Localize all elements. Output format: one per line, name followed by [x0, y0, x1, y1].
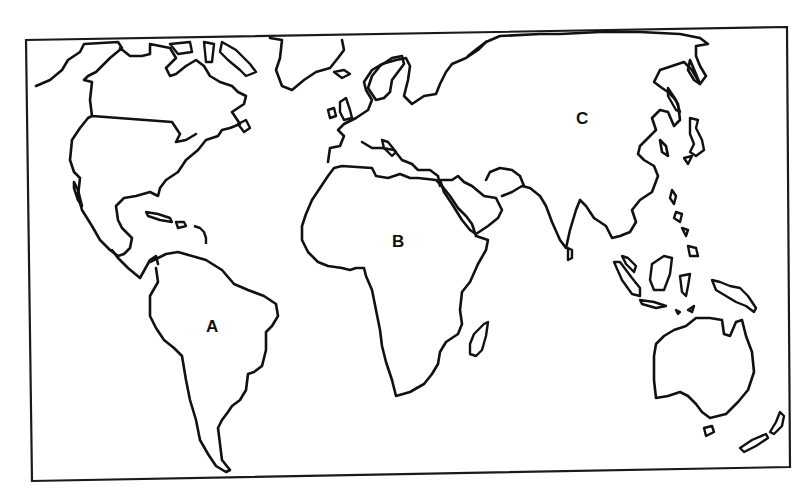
asia-outline — [468, 32, 708, 248]
arabia-outline — [440, 176, 502, 234]
label-b: B — [392, 233, 404, 250]
sulawesi-outline — [680, 274, 690, 296]
japan-south-outline — [684, 156, 692, 164]
australia-outline — [654, 318, 754, 418]
map-frame — [26, 27, 790, 481]
japan-outline — [690, 118, 704, 156]
iceland-outline — [334, 70, 350, 78]
new-zealand-south-outline — [740, 434, 768, 452]
malaysia-outline — [622, 256, 636, 272]
hispaniola-outline — [176, 222, 186, 228]
britain-outline — [340, 98, 352, 120]
lesser-antilles-outline — [194, 226, 206, 244]
map-svg — [0, 0, 810, 502]
north-america-outline — [36, 42, 246, 256]
label-a: A — [206, 318, 218, 335]
madagascar-outline — [470, 322, 488, 356]
world-outline-map: A B C — [0, 0, 810, 502]
korea-outline — [660, 140, 668, 156]
taiwan-outline — [670, 190, 676, 204]
ireland-outline — [328, 108, 336, 118]
borneo-outline — [650, 256, 672, 290]
java-outline — [640, 300, 666, 308]
tasmania-outline — [704, 426, 714, 436]
greenland-outline — [270, 38, 344, 90]
newfoundland-outline — [238, 120, 250, 132]
label-c: C — [576, 110, 588, 127]
sri-lanka-outline — [568, 248, 572, 260]
scandinavia-outline — [368, 56, 404, 100]
philippines-outline — [674, 212, 698, 256]
cuba-outline — [146, 212, 172, 222]
africa-outline — [302, 166, 488, 396]
new-guinea-outline — [712, 280, 756, 312]
south-america-outline — [112, 250, 278, 472]
new-zealand-north-outline — [770, 412, 784, 434]
arctic-islands-outline — [170, 42, 256, 76]
lesser-sunda-outline — [676, 306, 694, 314]
